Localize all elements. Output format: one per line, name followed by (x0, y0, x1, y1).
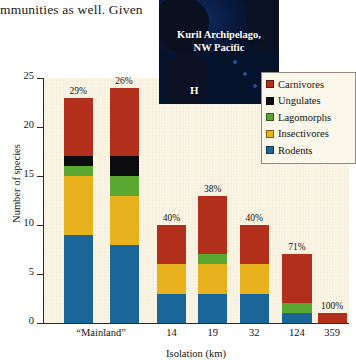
bar-percent-label: 100% (302, 301, 356, 311)
bar-segment-lagomorphs[interactable] (64, 166, 93, 176)
legend-item-rodents[interactable]: Rodents (266, 142, 351, 159)
bar-segment-rodents[interactable] (110, 245, 139, 323)
stacked-bar[interactable] (240, 225, 269, 323)
bar-segment-carnivores[interactable] (282, 254, 311, 303)
legend-swatch-icon (266, 113, 274, 121)
y-tick-label: 5 (29, 266, 34, 277)
bar-percent-label: 29% (48, 86, 108, 96)
bar-segment-carnivores[interactable] (240, 225, 269, 264)
inset-title-line2: NW Pacific (159, 41, 279, 54)
stacked-bar[interactable] (282, 254, 311, 323)
bar-segment-rodents[interactable] (240, 294, 269, 323)
inset-title-line1: Kuril Archipelago, (159, 28, 279, 41)
legend-label: Carnivores (278, 79, 324, 90)
bar-segment-lagomorphs[interactable] (198, 254, 227, 264)
y-tick-label: 20 (24, 119, 35, 130)
bar-percent-label: 40% (142, 213, 202, 223)
y-tick-label: 25 (24, 70, 35, 81)
bar-segment-ungulates[interactable] (110, 156, 139, 176)
stacked-bar[interactable] (198, 196, 227, 323)
legend-swatch-icon (266, 146, 274, 154)
legend-swatch-icon (266, 130, 274, 138)
bar-group: 29% (64, 78, 93, 323)
bar-group: 38% (198, 78, 227, 323)
bar-segment-insectivores[interactable] (198, 264, 227, 293)
bar-segment-ungulates[interactable] (64, 156, 93, 166)
bar-percent-label: 26% (94, 76, 154, 86)
bar-segment-insectivores[interactable] (240, 264, 269, 293)
x-tick-label: “Mainland” (61, 327, 141, 338)
legend-swatch-icon (266, 80, 274, 88)
legend-label: Lagomorphs (278, 112, 331, 123)
bar-segment-carnivores[interactable] (64, 98, 93, 157)
y-tick-0: 0 (37, 323, 43, 324)
bar-segment-rodents[interactable] (282, 313, 311, 323)
bar-percent-label: 40% (224, 213, 284, 223)
bar-segment-carnivores[interactable] (318, 313, 347, 323)
y-tick-mark (37, 323, 43, 324)
legend-item-ungulates[interactable]: Ungulates (266, 93, 351, 110)
inset-marker-h: H (190, 84, 199, 96)
stacked-bar[interactable] (64, 98, 93, 323)
inset-landmass-south (165, 52, 209, 104)
chart-legend: CarnivoresUngulatesLagomorphsInsectivore… (261, 72, 356, 164)
bar-segment-carnivores[interactable] (110, 88, 139, 157)
y-tick-label: 15 (24, 168, 35, 179)
x-axis-line (43, 323, 349, 324)
legend-swatch-icon (266, 97, 274, 105)
x-tick-label: 359 (292, 327, 356, 338)
stacked-bar[interactable] (110, 88, 139, 323)
legend-item-insectivores[interactable]: Insectivores (266, 126, 351, 143)
stacked-bar[interactable] (157, 225, 186, 323)
bar-percent-label: 38% (183, 184, 243, 194)
bar-group: 40% (157, 78, 186, 323)
bar-segment-insectivores[interactable] (110, 196, 139, 245)
bar-segment-rodents[interactable] (198, 294, 227, 323)
y-axis-label: Number of species (11, 124, 22, 244)
bar-segment-carnivores[interactable] (157, 225, 186, 264)
bar-segment-insectivores[interactable] (64, 176, 93, 235)
legend-label: Rodents (278, 145, 312, 156)
bar-segment-rodents[interactable] (64, 235, 93, 323)
stacked-bar[interactable] (318, 313, 347, 323)
legend-item-lagomorphs[interactable]: Lagomorphs (266, 109, 351, 126)
bar-segment-carnivores[interactable] (198, 196, 227, 255)
legend-item-carnivores[interactable]: Carnivores (266, 76, 351, 93)
x-axis-label: Isolation (km) (43, 348, 349, 359)
y-tick-label: 10 (24, 217, 35, 228)
y-tick-label: 0 (29, 315, 34, 326)
legend-label: Insectivores (278, 128, 329, 139)
bar-segment-lagomorphs[interactable] (110, 176, 139, 196)
body-text: mmunities as well. Given (0, 2, 150, 22)
bar-segment-rodents[interactable] (157, 294, 186, 323)
bar-group: 26% (110, 78, 139, 323)
legend-label: Ungulates (278, 95, 321, 106)
inset-title: Kuril Archipelago, NW Pacific (159, 28, 279, 54)
bar-segment-insectivores[interactable] (157, 264, 186, 293)
